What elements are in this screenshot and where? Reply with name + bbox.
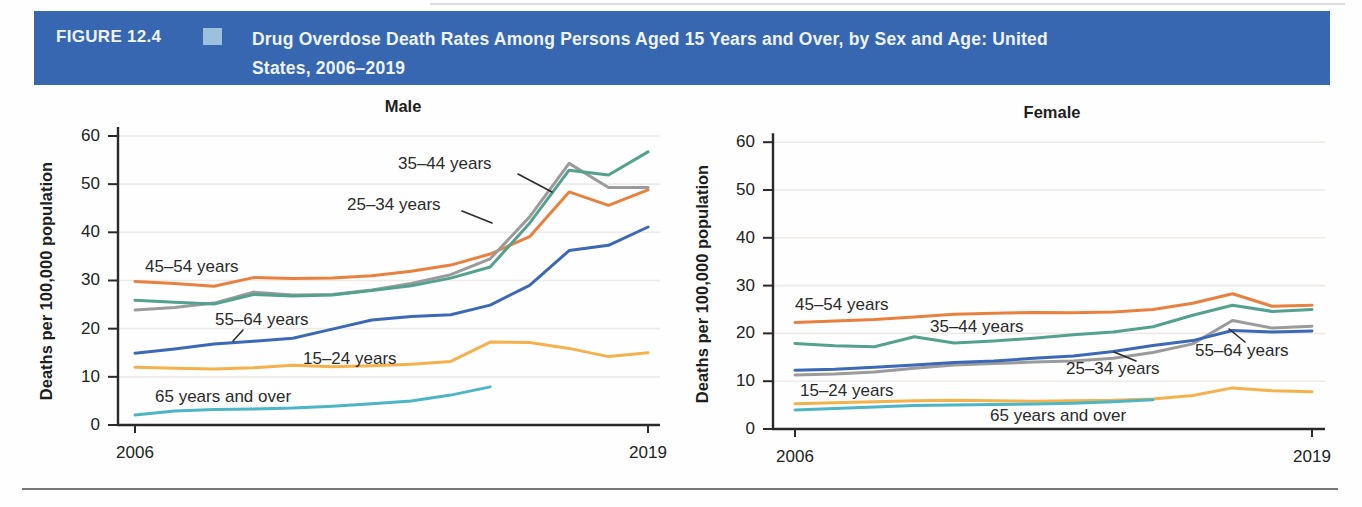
female-annotation-3: 35–44 years (930, 317, 1024, 337)
female-annotation-2: 25–34 years (1066, 359, 1160, 379)
male-annotation-1: 45–54 years (145, 257, 239, 277)
female-annotation-4: 55–64 years (1195, 341, 1289, 361)
male-y-tick-label-10: 10 (54, 367, 100, 387)
male-annotation-2: 25–34 years (347, 195, 441, 215)
male-chart-title: Male (303, 97, 503, 116)
male-y-tick-label-0: 0 (54, 415, 100, 435)
male-x-tick-label-2019: 2019 (616, 443, 680, 463)
male-y-axis-label: Deaths per 100,000 population (37, 162, 56, 400)
female-y-tick-label-50: 50 (709, 180, 755, 200)
female-y-tick-label-20: 20 (709, 323, 755, 343)
male-y-tick-label-50: 50 (54, 174, 100, 194)
male-annotation-4: 55–64 years (215, 310, 309, 330)
female-annotation-5: 15–24 years (800, 381, 894, 401)
male-y-tick-label-40: 40 (54, 222, 100, 242)
charts-text-overlay: Male Female Deaths per 100,000 populatio… (0, 0, 1362, 507)
female-chart-title: Female (952, 103, 1152, 122)
male-annotation-5: 15–24 years (303, 349, 397, 369)
female-y-tick-label-40: 40 (709, 228, 755, 248)
male-annotation-3: 35–44 years (398, 154, 492, 174)
female-y-tick-label-30: 30 (709, 276, 755, 296)
female-y-tick-label-10: 10 (709, 371, 755, 391)
female-y-tick-label-60: 60 (709, 132, 755, 152)
female-x-tick-label-2006: 2006 (763, 447, 827, 467)
male-y-tick-label-30: 30 (54, 270, 100, 290)
male-y-tick-label-20: 20 (54, 319, 100, 339)
male-x-tick-label-2006: 2006 (103, 443, 167, 463)
male-annotation-6: 65 years and over (155, 387, 291, 407)
female-y-tick-label-0: 0 (709, 419, 755, 439)
female-x-tick-label-2019: 2019 (1280, 447, 1344, 467)
female-annotation-6: 65 years and over (990, 406, 1126, 426)
female-annotation-1: 45–54 years (795, 295, 889, 315)
male-y-tick-label-60: 60 (54, 126, 100, 146)
